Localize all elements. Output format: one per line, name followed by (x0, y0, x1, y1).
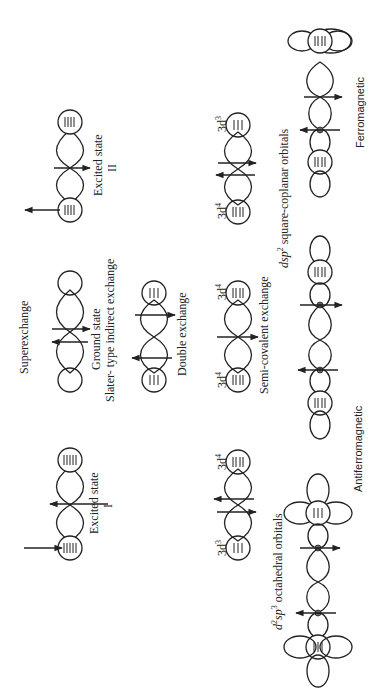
ferromagnetic-diagram (288, 29, 352, 197)
double-exchange-label: Double exchange (175, 292, 189, 376)
ion-bottom (58, 198, 82, 222)
ion-label-3d4-top: 3d4 (214, 284, 229, 300)
ion-label-3d3-top: 3d3 (214, 116, 229, 132)
roman-1-label: I (101, 504, 115, 508)
roman-2-label: II (105, 164, 119, 172)
square-coplanar-chain (298, 236, 342, 439)
ion-bottom (58, 368, 82, 392)
slater-label: Slater- type indirect exchange (103, 259, 117, 402)
ion-bottom (226, 368, 250, 392)
ferromagnetic-label: Ferromagnetic (354, 77, 366, 148)
ion-3d4 (226, 200, 250, 224)
semi-covalent-label: Semi-covalent exchange (257, 276, 271, 394)
square-coplanar-label: dsp2 square-coplanar orbitals (276, 128, 291, 268)
ion-top (308, 29, 332, 53)
ground-state-label: Ground state (89, 308, 103, 370)
ion-label-3d4-bottom: 3d4 (214, 203, 229, 219)
excited-state-1-label: Excited state (87, 472, 101, 534)
octahedral-label: d2sp3 octahedral orbitals (270, 513, 285, 630)
excited-state-2-diagram (25, 110, 90, 222)
ground-state-diagram (52, 271, 90, 392)
exchange-mechanisms-diagram: Excited state II Ground state Slater- ty… (0, 0, 387, 697)
double-exchange-diagram (132, 281, 175, 392)
antiferromagnetic-diagram (284, 474, 352, 687)
superexchange-title: Superexchange (17, 301, 31, 374)
ion-top (226, 281, 250, 305)
excited-state-2-label: Excited state (91, 134, 105, 196)
ion-top (58, 271, 82, 295)
antiferromagnetic-label: Antiferromagnetic (352, 405, 364, 492)
ion-top (308, 260, 332, 284)
ion-top (58, 110, 82, 134)
ion-3d4 (226, 450, 250, 474)
